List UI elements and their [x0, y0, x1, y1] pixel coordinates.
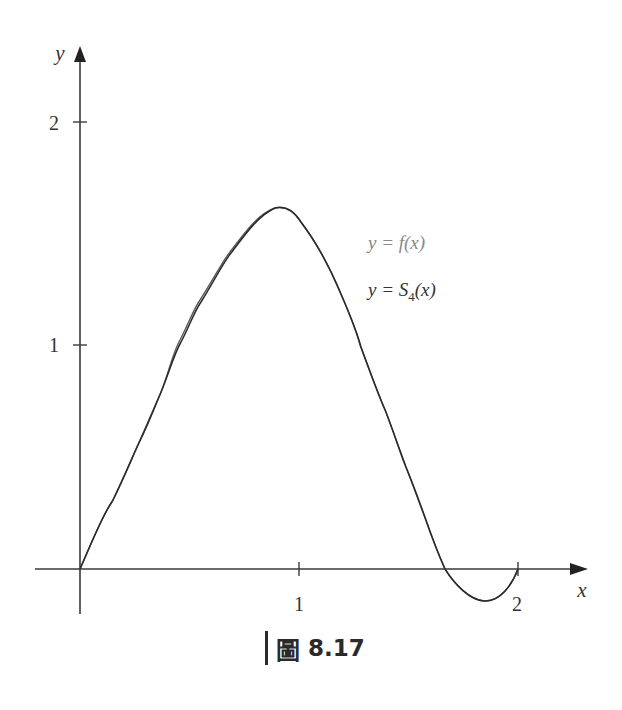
figure-8-17: 1 2 1 2 x y y = f(x) y = S4(x) 圖 8.17: [0, 0, 622, 710]
axes: [35, 46, 588, 614]
figure-caption: 圖 8.17: [265, 630, 365, 666]
x-tick-label-2: 2: [512, 593, 522, 615]
x-axis-label: x: [576, 578, 587, 602]
caption-prefix: 圖: [276, 631, 300, 666]
y-axis-arrow-icon: [74, 46, 86, 62]
x-tick-label-1: 1: [294, 593, 304, 615]
label-s4: y = S4(x): [366, 279, 436, 304]
curve-s4: [80, 208, 518, 601]
y-tick-label-1: 1: [49, 334, 59, 356]
caption-number: 8.17: [308, 635, 365, 661]
x-axis-arrow-icon: [570, 563, 588, 575]
caption-bar: [265, 631, 268, 665]
y-axis-label: y: [53, 41, 65, 65]
label-f: y = f(x): [366, 232, 425, 254]
y-tick-label-2: 2: [49, 112, 59, 134]
curve-f: [80, 207, 518, 601]
plot-canvas: 1 2 1 2 x y y = f(x) y = S4(x): [0, 0, 622, 710]
